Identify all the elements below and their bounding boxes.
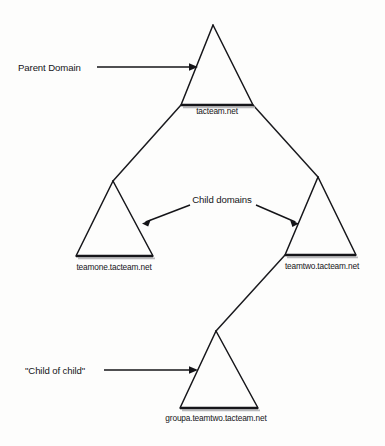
connector-parent-to-child-two xyxy=(253,105,318,177)
connector-parent-to-child-one xyxy=(113,105,181,181)
triangle-right-edge xyxy=(113,181,153,256)
annotation-parent-domain: Parent Domain xyxy=(18,62,198,73)
domain-node-parent[interactable]: tacteam.net xyxy=(181,25,255,116)
triangle-right-edge xyxy=(318,177,356,255)
annotation-leader-line-left xyxy=(146,205,190,222)
domain-hierarchy-diagram: tacteam.net teamone.tacteam.net teamtwo.… xyxy=(0,0,385,446)
annotation-label-child-of-child: "Child of child" xyxy=(25,365,85,376)
arrowhead-icon xyxy=(142,220,151,227)
domain-node-child-one[interactable]: teamone.tacteam.net xyxy=(76,181,155,272)
triangle-right-edge xyxy=(213,25,253,105)
triangle-right-edge xyxy=(216,331,258,408)
domain-label-parent: tacteam.net xyxy=(196,106,239,116)
domain-label-grandchild: groupa.teamtwo.tacteam.net xyxy=(165,413,267,423)
annotation-child-of-child: "Child of child" xyxy=(25,365,198,376)
connector-child-two-to-grandchild xyxy=(216,255,285,331)
annotation-leader-line-right xyxy=(256,205,295,222)
domain-label-child-one: teamone.tacteam.net xyxy=(76,262,152,272)
triangle-left-edge xyxy=(181,25,213,105)
domain-node-grandchild[interactable]: groupa.teamtwo.tacteam.net xyxy=(165,331,267,423)
diagram-canvas: tacteam.net teamone.tacteam.net teamtwo.… xyxy=(0,0,385,446)
annotation-child-domains: Child domains xyxy=(142,194,299,227)
triangle-left-edge xyxy=(76,181,113,256)
annotation-label-parent-domain: Parent Domain xyxy=(18,62,81,73)
domain-label-child-two: teamtwo.tacteam.net xyxy=(285,261,360,271)
triangle-left-edge xyxy=(285,177,318,255)
annotation-label-child-domains: Child domains xyxy=(192,194,252,205)
